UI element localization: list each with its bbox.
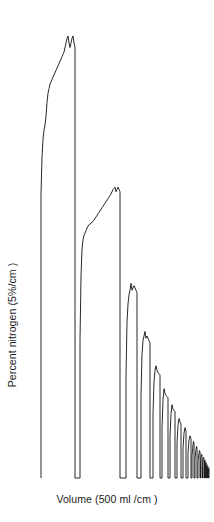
x-axis-label-container: Volume (500 ml /cm ) bbox=[0, 489, 214, 507]
nitrogen-trace-line bbox=[41, 36, 209, 478]
x-axis-label: Volume (500 ml /cm ) bbox=[56, 493, 157, 505]
nitrogen-washout-figure: Percent nitrogen (5%/cm ) Volume (500 ml… bbox=[0, 0, 214, 522]
plot-area bbox=[0, 0, 214, 490]
nitrogen-trace-svg bbox=[0, 0, 214, 490]
